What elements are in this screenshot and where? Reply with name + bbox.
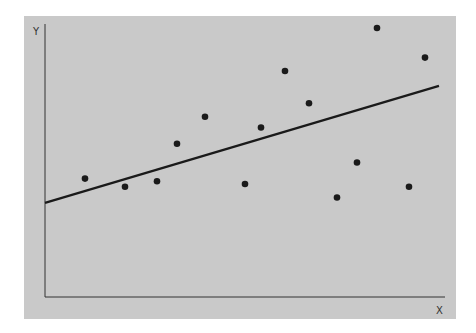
data-point [282,68,289,75]
data-point [306,100,313,107]
data-point [354,159,361,166]
data-point [374,25,381,32]
data-point [242,181,249,188]
data-point [82,175,89,182]
data-point [334,194,341,201]
data-point [406,183,413,190]
y-axis-label: Y [32,26,40,37]
data-points [82,25,429,201]
data-point [422,54,429,61]
data-point [202,114,209,121]
data-point [258,124,265,131]
scatter-chart: Y X [0,0,476,333]
data-point [154,178,161,185]
data-point [174,140,181,147]
data-point [122,183,129,190]
x-axis-label: X [436,305,443,316]
